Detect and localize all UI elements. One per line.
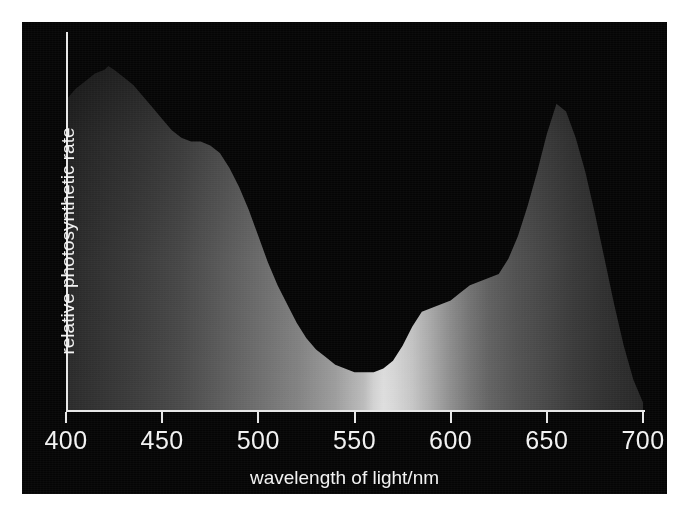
figure: 400450500550600650700 wavelength of ligh… [0, 0, 696, 517]
chart-panel: 400450500550600650700 wavelength of ligh… [22, 22, 667, 494]
x-tick-label-650: 650 [525, 426, 568, 455]
x-tick-label-600: 600 [429, 426, 472, 455]
x-axis-label: wavelength of light/nm [22, 467, 667, 489]
x-tick-label-700: 700 [621, 426, 664, 455]
action-spectrum-area [66, 32, 643, 410]
x-tick-700 [642, 412, 644, 423]
x-tick-550 [354, 412, 356, 423]
x-tick-label-500: 500 [237, 426, 280, 455]
x-tick-label-550: 550 [333, 426, 376, 455]
plot-area [66, 32, 643, 422]
x-tick-450 [161, 412, 163, 423]
x-tick-500 [257, 412, 259, 423]
y-axis-label-wrap: relative photosynthetic rate [40, 62, 74, 402]
spectrum-vertical-shading [66, 32, 643, 410]
x-tick-600 [450, 412, 452, 423]
x-tick-650 [546, 412, 548, 423]
y-axis-label: relative photosynthetic rate [57, 61, 79, 421]
x-tick-label-400: 400 [44, 426, 87, 455]
x-axis-line [66, 410, 645, 412]
x-tick-label-450: 450 [141, 426, 184, 455]
